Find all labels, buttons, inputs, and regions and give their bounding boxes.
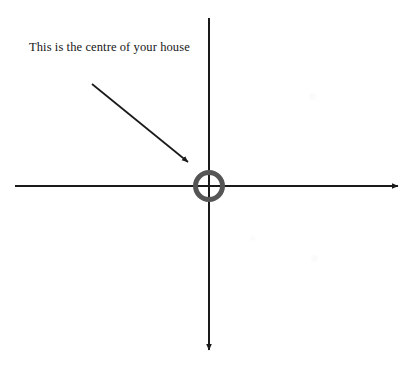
annotation-pointer-arrow [92, 84, 188, 162]
diagram-canvas: This is the centre of your house [0, 0, 418, 368]
centre-of-house-diagram [0, 0, 418, 368]
centre-of-house-label: This is the centre of your house [29, 40, 190, 55]
